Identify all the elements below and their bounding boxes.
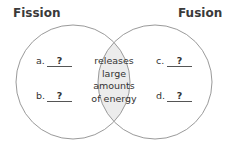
intersection-line-2: large bbox=[86, 68, 142, 81]
intersection-line-3: amounts bbox=[86, 80, 142, 93]
blank-d-letter: d. bbox=[156, 90, 167, 101]
blank-d: d.? bbox=[156, 90, 192, 102]
blank-d-answer: ? bbox=[167, 91, 192, 102]
blank-a-answer: ? bbox=[47, 56, 72, 67]
fusion-title: Fusion bbox=[178, 6, 222, 20]
blank-b: b.? bbox=[36, 90, 72, 102]
blank-c-answer: ? bbox=[167, 56, 192, 67]
blank-c: c.? bbox=[156, 55, 192, 67]
blank-b-letter: b. bbox=[36, 90, 47, 101]
intersection-line-1: releases bbox=[86, 55, 142, 68]
blank-c-letter: c. bbox=[156, 55, 167, 66]
fission-title: Fission bbox=[13, 6, 61, 20]
intersection-line-4: of energy bbox=[86, 93, 142, 106]
blank-a: a.? bbox=[36, 55, 72, 67]
blank-a-letter: a. bbox=[36, 55, 47, 66]
intersection-text: releases large amounts of energy bbox=[86, 55, 142, 105]
blank-b-answer: ? bbox=[47, 91, 72, 102]
